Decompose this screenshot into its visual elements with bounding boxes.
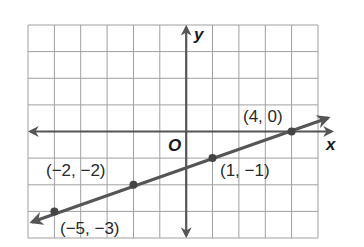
point-label-4-0: (4, 0)	[243, 107, 283, 126]
point-4-0	[288, 128, 296, 136]
point-1-neg1	[209, 154, 217, 162]
point-neg5-neg3	[50, 207, 58, 215]
x-axis-label: x	[325, 135, 337, 154]
point-label-neg5-neg3: (−5, −3)	[60, 219, 120, 238]
point-neg2-neg2	[130, 181, 138, 189]
point-label-1-neg1: (1, −1)	[220, 161, 270, 180]
y-axis-label: y	[193, 25, 205, 44]
point-label-neg2-neg2: (−2, −2)	[46, 161, 106, 180]
coordinate-graph: y x O (4, 0) (−2, −2) (1, −1) (−5, −3)	[0, 0, 364, 247]
origin-label: O	[168, 136, 181, 155]
